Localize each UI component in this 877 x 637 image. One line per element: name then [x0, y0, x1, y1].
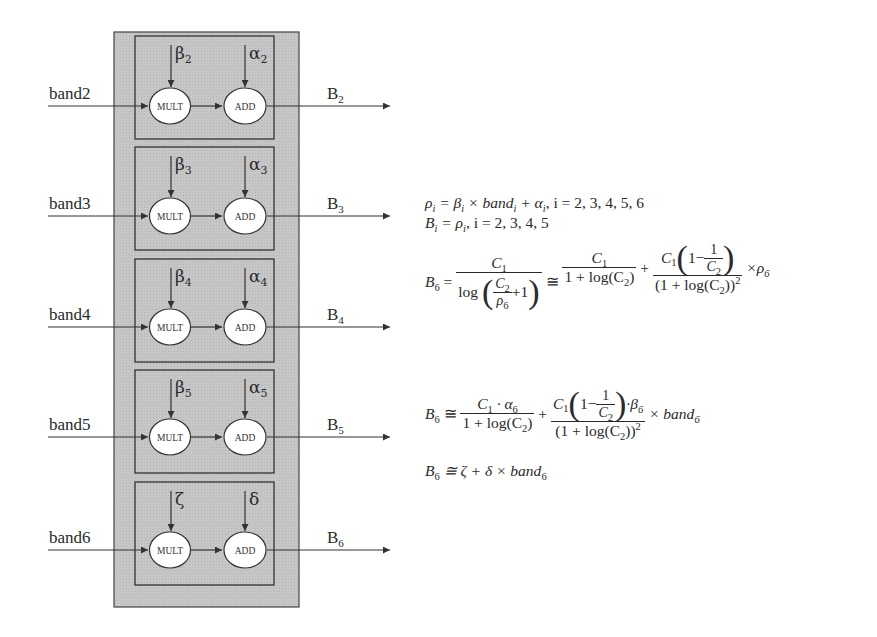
- eq4-times: × band: [649, 405, 694, 422]
- eq3-f1-num: C: [491, 254, 501, 271]
- equation-b6-log: B6 = C1 log (C2ρ6+1) ≅ C1 1 + log(C2) + …: [425, 254, 769, 309]
- eq3-f1-num-sub: 1: [501, 263, 506, 274]
- eq3-times: ×ρ: [746, 259, 764, 276]
- processing-row: MULTADDband6B6ζδ: [48, 482, 390, 585]
- input-band-label: band4: [49, 305, 91, 324]
- eq4-f2-inner-den-sub: 2: [608, 412, 613, 423]
- input-band-label: band2: [49, 84, 91, 103]
- eq3-inner-num: C: [495, 276, 504, 291]
- eq3-f1-log: log: [458, 283, 478, 301]
- eq3-f3-inner-den: C: [706, 259, 715, 274]
- equation-bi: Bi = ρi, i = 2, 3, 4, 5: [425, 214, 549, 232]
- eq3-f3-inner-num: 1: [704, 242, 723, 258]
- eq4-f2-den-close: )): [625, 422, 635, 439]
- eq3-plus-one: +1: [512, 283, 529, 301]
- processing-row: MULTADDband2B2β2α2: [48, 36, 390, 139]
- add-param-label: δ: [249, 489, 259, 509]
- mult-label: MULT: [157, 102, 183, 112]
- eq4-f2-inner-den: C: [598, 405, 607, 420]
- input-band-label: band5: [49, 415, 91, 434]
- eq3-approx: ≅: [546, 273, 559, 291]
- eq5-lhs-sub: 6: [434, 471, 439, 482]
- eq3-f2-num: C: [592, 249, 602, 266]
- eq3-f3-inner-den-sub: 2: [716, 266, 721, 277]
- eq2-condition: , i = 2, 3, 4, 5: [466, 214, 549, 231]
- equation-b6-approx: B6 ≅ C1 · α6 1 + log(C2) + C1(1−1C2)·β6 …: [425, 387, 700, 440]
- output-label: B3: [327, 194, 344, 215]
- eq1-plus: + α: [516, 194, 542, 211]
- eq3-f3-one: 1−: [688, 249, 705, 267]
- processing-block-diagram: MULTADDband2B2β2α2MULTADDband3B3β3α3MULT…: [0, 0, 420, 637]
- eq4-f1-num: C: [477, 395, 487, 412]
- eq4-f2-one: 1−: [580, 395, 597, 413]
- processing-row: MULTADDband3B3β3α3: [48, 147, 390, 250]
- eq4-f2-den-sup: 2: [636, 421, 641, 432]
- eq4-times-sub: 6: [694, 414, 699, 425]
- eq4-lhs-sub: 6: [434, 414, 439, 425]
- eq4-f2-den: (1 + log(C: [555, 422, 620, 439]
- eq3-plus: +: [640, 259, 649, 277]
- eq3-f3-den: (1 + log(C: [655, 276, 720, 293]
- eq3-fraction-3: C1(1−1C2) (1 + log(C2))2: [653, 241, 743, 294]
- eq1-rhs: = β: [439, 194, 461, 211]
- mult-label: MULT: [157, 323, 183, 333]
- processing-row: MULTADDband4B4β4α4: [48, 259, 390, 362]
- eq3-fraction-1: C1 log (C2ρ6+1): [456, 254, 541, 309]
- mult-label: MULT: [157, 433, 183, 443]
- eq1-mid: × band: [464, 194, 513, 211]
- output-label: B2: [327, 84, 344, 105]
- add-label: ADD: [235, 212, 256, 222]
- input-band-label: band3: [49, 194, 91, 213]
- eq3-eq: =: [444, 273, 453, 290]
- eq4-f2-inner-num: 1: [596, 388, 615, 404]
- eq3-fraction-2: C1 1 + log(C2): [562, 249, 636, 286]
- eq4-f2-tail-sub: 6: [638, 404, 643, 415]
- input-band-label: band6: [49, 528, 91, 547]
- add-label: ADD: [235, 323, 256, 333]
- eq3-f3-den-close: )): [725, 276, 735, 293]
- mult-label: MULT: [157, 212, 183, 222]
- equation-b6-linear: B6 ≅ ζ + δ × band6: [425, 462, 547, 480]
- output-label: B6: [327, 528, 344, 549]
- eq4-f1-num-rest: · α: [493, 395, 513, 412]
- eq3-inner-den-sub: 6: [503, 300, 508, 311]
- eq3-inner-num-sub: 2: [505, 283, 510, 294]
- eq4-f1-den-close: ): [527, 414, 532, 431]
- eq4-fraction-2: C1(1−1C2)·β6 (1 + log(C2))2: [551, 387, 645, 440]
- eq3-lhs-sub: 6: [434, 282, 439, 293]
- eq4-fraction-1: C1 · α6 1 + log(C2): [460, 395, 534, 432]
- mult-label: MULT: [157, 546, 183, 556]
- eq4-f2-tail: ·β: [626, 395, 638, 412]
- processing-row: MULTADDband5B5β5α5: [48, 370, 390, 473]
- mult-param-label: ζ: [175, 489, 184, 509]
- add-label: ADD: [235, 546, 256, 556]
- eq4-approx: ≅: [444, 405, 457, 422]
- add-label: ADD: [235, 433, 256, 443]
- eq1-lhs-sub: i: [432, 203, 435, 214]
- eq3-f2-den: 1 + log(C: [564, 268, 624, 285]
- eq3-f3-den-sup: 2: [735, 275, 740, 286]
- eq4-f1-den: 1 + log(C: [462, 414, 522, 431]
- eq4-plus: +: [538, 405, 547, 423]
- output-label: B4: [327, 305, 344, 326]
- equation-rho: ρi = βi × bandi + αi, i = 2, 3, 4, 5, 6: [425, 194, 644, 212]
- eq2-eq: = ρ: [437, 214, 463, 231]
- output-label: B5: [327, 415, 344, 436]
- add-label: ADD: [235, 102, 256, 112]
- eq3-times-sub: 6: [764, 268, 769, 279]
- eq1-condition: , i = 2, 3, 4, 5, 6: [546, 194, 644, 211]
- eq5-rhs-sub: 6: [541, 471, 546, 482]
- eq5-rhs: ≅ ζ + δ × band: [444, 462, 542, 479]
- eq4-f2-c: C: [553, 395, 563, 413]
- eq3-f3-c: C: [661, 249, 671, 267]
- eq3-f2-den-close: ): [629, 268, 634, 285]
